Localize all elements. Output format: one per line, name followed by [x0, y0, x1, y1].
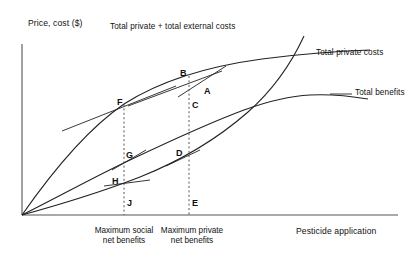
point-label-b: B [180, 68, 187, 78]
x-category-private-line1: Maximum private [142, 226, 242, 236]
point-label-h: H [112, 176, 119, 186]
point-label-d: D [176, 148, 183, 158]
point-label-c: C [192, 100, 199, 110]
x-axis-title: Pesticide application [296, 226, 376, 236]
x-category-private: Maximum private net benefits [142, 226, 242, 245]
x-category-private-line2: net benefits [142, 236, 242, 246]
tangent-line-f [62, 86, 176, 131]
total-benefits-curve-label: Total benefits [355, 88, 405, 97]
point-label-f: F [117, 97, 123, 107]
social-cost-curve-label: Total private + total external costs [110, 22, 235, 31]
total-benefits-curve [22, 95, 368, 215]
chord-line-d [166, 150, 200, 166]
chart-svg [0, 0, 412, 256]
point-label-j: J [127, 198, 132, 208]
figure-canvas: Price, cost ($) Pesticide application To… [0, 0, 412, 256]
point-label-a: A [204, 86, 211, 96]
social-cost-curve [22, 50, 370, 215]
private-cost-curve-label: Total private costs [316, 48, 383, 57]
private-cost-curve [22, 36, 304, 215]
y-axis-title: Price, cost ($) [28, 18, 83, 28]
point-label-e: E [192, 198, 198, 208]
chord-line-h [104, 180, 150, 186]
point-label-g: G [126, 150, 133, 160]
